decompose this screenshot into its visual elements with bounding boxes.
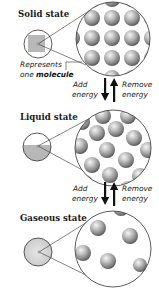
solid-state-title: Solid state xyxy=(18,9,70,19)
remove-energy-label-1a: Remove xyxy=(122,80,153,89)
annotation-line1: Represents xyxy=(20,60,62,69)
gaseous-state-group: Gaseous state xyxy=(20,200,151,287)
add-energy-label-1a: Add xyxy=(72,80,88,89)
arrow-up-icon xyxy=(110,78,118,102)
solid-state-group: Solid state xyxy=(18,0,159,86)
remove-energy-label-2a: Remove xyxy=(122,184,153,193)
add-energy-label-2b: energy xyxy=(72,194,99,203)
annotation-leader-line xyxy=(66,62,82,70)
liquid-inset-circle xyxy=(22,133,52,162)
gaseous-state-title: Gaseous state xyxy=(20,213,87,223)
transition-solid-liquid: Add energy Remove energy xyxy=(72,78,153,102)
transition-liquid-gas: Add energy Remove energy xyxy=(72,182,153,206)
add-energy-label-1b: energy xyxy=(72,90,99,99)
states-of-matter-diagram: Solid state xyxy=(0,0,159,289)
annotation-line2: one molecule xyxy=(20,70,74,79)
add-energy-label-2a: Add xyxy=(72,184,88,193)
remove-energy-label-2b: energy xyxy=(122,194,149,203)
arrow-down-icon xyxy=(101,78,109,101)
remove-energy-label-1b: energy xyxy=(122,90,149,99)
molecule-pointer-dot xyxy=(37,43,39,45)
liquid-state-title: Liquid state xyxy=(20,112,78,122)
solid-magnified-circle xyxy=(64,0,159,86)
